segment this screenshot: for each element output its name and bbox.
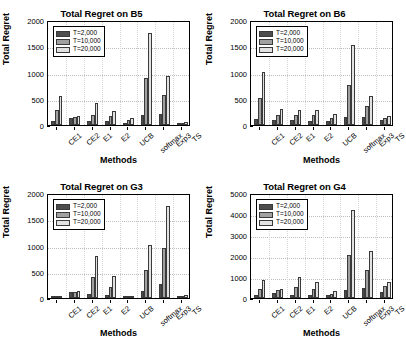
y-tick-label: 0 — [40, 295, 44, 304]
legend-swatch-icon — [259, 220, 273, 226]
x-tick-mark — [313, 127, 314, 130]
x-tick-label-ucb: UCB — [341, 304, 359, 321]
x-tick-label-ce2: CE2 — [84, 304, 101, 320]
legend-label: T=20,000 — [73, 219, 101, 226]
y-tick-label: 1000 — [230, 69, 247, 78]
bar-e2-series2 — [315, 282, 319, 298]
y-tick-label: 0 — [243, 295, 247, 304]
x-tick-label-e1: E1 — [101, 131, 114, 144]
x-tick-mark — [145, 127, 146, 130]
legend-label: T=20,000 — [276, 219, 304, 226]
x-tick-label-ce1: CE1 — [269, 304, 286, 320]
x-tick-mark — [277, 127, 278, 130]
x-axis-ticks: CE1CE2E1E2UCBsoftmaxExp3TS — [47, 300, 190, 328]
x-tick-mark — [163, 127, 164, 130]
legend-item[interactable]: T=10,000 — [56, 38, 101, 45]
x-tick-label-e2: E2 — [119, 131, 132, 144]
x-axis-label: Methods — [250, 328, 393, 338]
bar-ce1-series2 — [59, 96, 63, 125]
bar-exp3-series2 — [166, 76, 170, 125]
x-tick-label-ucb: UCB — [138, 304, 156, 321]
bar-ucb-series2 — [333, 114, 337, 125]
x-tick-label-ts: TS — [190, 304, 203, 317]
bar-softmax-series2 — [148, 33, 152, 125]
chart-legend: T=2,000T=10,000T=20,000 — [53, 26, 105, 57]
x-tick-mark — [384, 127, 385, 130]
x-tick-label-ts: TS — [393, 304, 406, 317]
bar-ce1-series2 — [59, 296, 63, 298]
y-tick-label: 5000 — [230, 190, 247, 199]
x-tick-label-e1: E1 — [101, 304, 114, 317]
x-tick-mark — [110, 300, 111, 303]
legend-swatch-icon — [56, 212, 70, 218]
bar-e1-series2 — [95, 256, 99, 298]
x-tick-mark — [74, 300, 75, 303]
legend-item[interactable]: T=2,000 — [56, 30, 101, 37]
x-tick-mark — [295, 300, 296, 303]
y-axis-ticks: 0500100015002000 — [0, 194, 44, 299]
x-tick-label-ce1: CE1 — [66, 304, 83, 320]
legend-swatch-icon — [56, 220, 70, 226]
legend-item[interactable]: T=10,000 — [56, 211, 101, 218]
legend-swatch-icon — [56, 204, 70, 210]
legend-item[interactable]: T=2,000 — [259, 30, 304, 37]
bar-ce2-series2 — [280, 289, 284, 298]
y-tick-label: 1000 — [230, 274, 247, 283]
x-tick-mark — [259, 300, 260, 303]
y-tick-label: 2000 — [230, 253, 247, 262]
y-tick-label: 500 — [31, 268, 44, 277]
legend-item[interactable]: T=10,000 — [259, 38, 304, 45]
bar-e1-series2 — [298, 110, 302, 125]
x-tick-label-ucb: UCB — [138, 131, 156, 148]
y-axis-ticks: 010002000300040005000 — [203, 194, 247, 299]
x-tick-mark — [277, 300, 278, 303]
x-tick-mark — [163, 300, 164, 303]
legend-swatch-icon — [259, 47, 273, 53]
legend-item[interactable]: T=20,000 — [56, 46, 101, 53]
figure-panel-grid: Total Regret on B5Total RegretMethods050… — [0, 0, 406, 346]
x-tick-mark — [330, 300, 331, 303]
bar-exp3-series2 — [369, 251, 373, 298]
legend-swatch-icon — [56, 39, 70, 45]
legend-item[interactable]: T=20,000 — [259, 46, 304, 53]
y-tick-label: 1500 — [230, 43, 247, 52]
y-tick-label: 1000 — [27, 242, 44, 251]
x-axis-label: Methods — [250, 155, 393, 165]
x-axis-label: Methods — [47, 328, 190, 338]
x-tick-label-ce1: CE1 — [66, 131, 83, 147]
legend-label: T=2,000 — [73, 203, 97, 210]
x-tick-mark — [127, 127, 128, 130]
x-tick-mark — [127, 300, 128, 303]
bar-softmax-series2 — [351, 45, 355, 125]
y-tick-label: 500 — [31, 95, 44, 104]
y-axis-ticks: 0500100015002000 — [0, 21, 44, 126]
x-tick-label-e1: E1 — [304, 131, 317, 144]
y-tick-label: 1500 — [27, 43, 44, 52]
legend-item[interactable]: T=2,000 — [56, 203, 101, 210]
x-tick-mark — [92, 127, 93, 130]
legend-item[interactable]: T=2,000 — [259, 203, 304, 210]
bar-ts-series2 — [387, 116, 391, 125]
chart-panel-b5: Total Regret on B5Total RegretMethods050… — [0, 0, 203, 173]
bar-ce2-series2 — [77, 291, 81, 298]
bar-e2-series2 — [112, 276, 116, 298]
x-tick-mark — [366, 127, 367, 130]
x-tick-label-ce2: CE2 — [84, 131, 101, 147]
y-tick-label: 0 — [40, 122, 44, 131]
x-tick-mark — [259, 127, 260, 130]
y-tick-label: 2000 — [27, 17, 44, 26]
y-axis-ticks: 0500100015002000 — [203, 21, 247, 126]
legend-item[interactable]: T=20,000 — [56, 219, 101, 226]
x-tick-mark — [348, 127, 349, 130]
legend-item[interactable]: T=20,000 — [259, 219, 304, 226]
legend-item[interactable]: T=10,000 — [259, 211, 304, 218]
y-tick-label: 2000 — [27, 190, 44, 199]
x-tick-mark — [92, 300, 93, 303]
bar-e2-series2 — [112, 111, 116, 125]
bar-ts-series2 — [184, 122, 188, 125]
x-axis-ticks: CE1CE2E1E2UCBsoftmaxExp3TS — [250, 300, 393, 328]
x-tick-mark — [110, 127, 111, 130]
y-tick-label: 500 — [234, 95, 247, 104]
legend-label: T=2,000 — [276, 30, 300, 37]
x-tick-mark — [74, 127, 75, 130]
